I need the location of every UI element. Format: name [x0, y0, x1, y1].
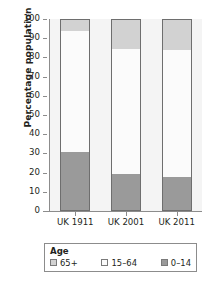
bar-segment-15-64 [61, 31, 89, 152]
plot-area [50, 19, 202, 211]
y-axis-tick-label: 70 [29, 71, 40, 81]
x-axis-label: UK 2011 [144, 217, 208, 227]
bar-uk-1911[interactable] [60, 19, 90, 211]
x-axis-tick [126, 212, 127, 216]
legend-swatch-icon [101, 259, 108, 266]
y-axis-tick-label: 60 [29, 90, 40, 100]
y-axis-tick-label: 20 [29, 167, 40, 177]
legend-item[interactable]: 65+ [50, 259, 78, 267]
legend-item[interactable]: 0–14 [161, 259, 191, 267]
bar-segment-65plus [163, 20, 191, 50]
y-axis-tick-mark [43, 115, 47, 116]
legend-item[interactable]: 15–64 [101, 259, 137, 267]
legend-swatch-icon [50, 259, 57, 266]
bar-uk-2001[interactable] [111, 19, 141, 211]
legend-swatch-icon [161, 259, 168, 266]
y-axis-tick-label: 90 [29, 32, 40, 42]
bar-segment-0-14 [112, 174, 140, 210]
y-axis-tick-label: 40 [29, 128, 40, 138]
y-axis-tick-label: 80 [29, 51, 40, 61]
y-axis-tick-label: 0 [35, 205, 40, 215]
y-axis-tick-label: 30 [29, 147, 40, 157]
y-axis-tick-mark [43, 19, 47, 20]
legend-items: 65+15–640–14 [50, 259, 191, 267]
y-axis-tick-label: 100 [24, 13, 40, 23]
bar-segment-15-64 [163, 50, 191, 177]
y-axis-tick-label: 10 [29, 186, 40, 196]
legend-item-label: 0–14 [171, 259, 191, 267]
x-axis-tick [177, 212, 178, 216]
y-axis-tick-mark [43, 134, 47, 135]
chart-figure: Percentage population 100908070605040302… [0, 0, 208, 283]
bar-segment-65plus [112, 20, 140, 49]
bar-segment-0-14 [61, 152, 89, 210]
legend-item-label: 15–64 [111, 259, 137, 267]
y-axis-tick-label: 50 [29, 109, 40, 119]
y-axis-tick-mark [43, 77, 47, 78]
x-axis-tick [75, 212, 76, 216]
chart-legend: Age 65+15–640–14 [44, 243, 197, 272]
y-axis-tick-mark [43, 192, 47, 193]
y-axis-tick-mark [43, 57, 47, 58]
y-axis-tick-mark [43, 38, 47, 39]
bar-uk-2011[interactable] [162, 19, 192, 211]
y-axis-tick-mark [43, 173, 47, 174]
bar-segment-0-14 [163, 177, 191, 210]
y-axis-tick-mark [43, 96, 47, 97]
legend-item-label: 65+ [60, 259, 78, 267]
legend-title: Age [50, 247, 191, 256]
bar-segment-15-64 [112, 49, 140, 174]
bar-segment-65plus [61, 20, 89, 31]
y-axis-tick-mark [43, 153, 47, 154]
